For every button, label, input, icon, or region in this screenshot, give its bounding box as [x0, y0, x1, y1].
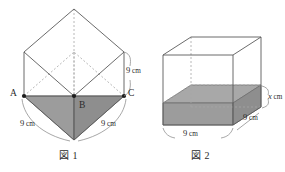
dimension-unit: cm	[249, 114, 258, 122]
leader-width-right	[221, 128, 233, 138]
dimension-unit: cm	[107, 120, 116, 128]
figure-1-caption: 図 1	[59, 151, 78, 161]
dimension-label-fig1-ab: 9 cm	[20, 119, 35, 128]
dimension-label-fig1-bc: 9 cm	[101, 119, 116, 128]
dimension-label-fig2-depth: 9 cm	[243, 113, 258, 122]
figure-2-caption: 図 2	[191, 151, 210, 161]
vertex-label-c: C	[128, 89, 134, 99]
vertex-label-b: B	[79, 101, 85, 111]
dimension-label-fig2-height: x cm	[268, 92, 282, 101]
figure-1-drawing	[0, 0, 143, 172]
leader-right-vertical	[124, 52, 130, 66]
dimension-unit: cm	[26, 120, 35, 128]
vertex-dot-b	[72, 94, 76, 98]
dimension-label-fig1-right: 9 cm	[126, 66, 141, 75]
dimension-unit: cm	[274, 93, 283, 101]
dimension-label-fig2-width: 9 cm	[183, 129, 198, 138]
dimension-unit: cm	[189, 130, 198, 138]
dimension-unit: cm	[132, 67, 141, 75]
figure-2-drawing	[143, 0, 285, 172]
cube-hidden-edges	[24, 9, 124, 96]
figure-sheet: A B C 9 cm 9 cm 9 cm 図 1	[0, 0, 285, 172]
vertex-label-a: A	[10, 89, 17, 99]
slab-front-face	[163, 103, 233, 125]
leader-width-left	[163, 128, 175, 138]
vertex-dot-a	[22, 94, 26, 98]
